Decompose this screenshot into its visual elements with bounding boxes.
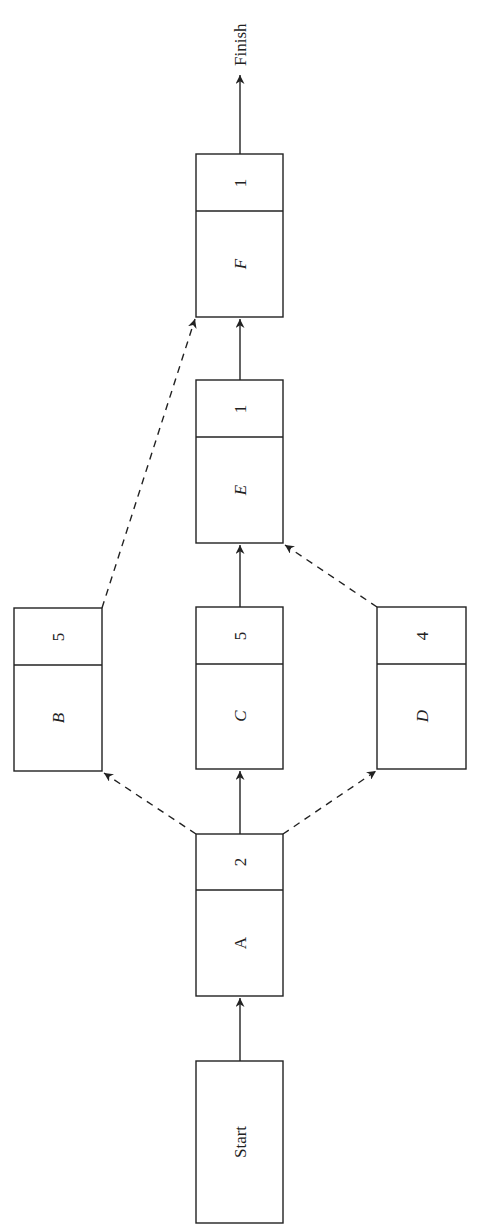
node-f-duration: 1 <box>231 179 250 188</box>
node-a-label: A <box>231 936 250 949</box>
finish-label: Finish <box>231 23 250 66</box>
node-f-label: F <box>231 258 250 270</box>
node-f: F 1 <box>196 154 283 317</box>
node-b-duration: 5 <box>49 633 68 642</box>
node-e-label: E <box>231 484 250 496</box>
edge-a-b <box>104 773 196 834</box>
node-d-duration: 4 <box>413 631 432 640</box>
node-a: A 2 <box>196 834 283 996</box>
node-d: D 4 <box>377 607 466 769</box>
node-c-label: C <box>231 710 250 722</box>
edge-d-e <box>285 545 377 607</box>
node-e: E 1 <box>196 380 283 543</box>
node-c: C 5 <box>196 607 283 769</box>
node-a-duration: 2 <box>231 858 250 867</box>
node-e-duration: 1 <box>231 405 250 414</box>
node-d-label: D <box>413 709 432 723</box>
edge-a-d <box>283 771 376 834</box>
node-b-label: B <box>49 712 68 723</box>
node-c-duration: 5 <box>231 632 250 641</box>
network-diagram: Start A 2 B 5 C 5 D 4 E 1 F 1 <box>0 0 485 1229</box>
node-b: B 5 <box>14 608 102 771</box>
edge-b-f <box>102 319 195 608</box>
node-start: Start <box>196 1061 283 1223</box>
start-label: Start <box>231 1126 250 1158</box>
